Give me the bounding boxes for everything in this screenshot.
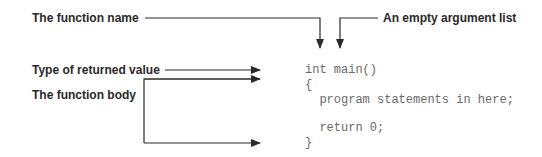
code-line-statements: program statements in here; bbox=[305, 93, 514, 107]
function-name-label: The function name bbox=[32, 11, 139, 25]
argument-list-arrow bbox=[340, 18, 378, 48]
code-line-open-brace: { bbox=[305, 78, 312, 92]
return-type-label: Type of returned value bbox=[32, 63, 160, 77]
empty-argument-list-label: An empty argument list bbox=[383, 11, 516, 25]
function-name-arrow bbox=[145, 18, 320, 48]
function-body-bracket-top bbox=[144, 79, 260, 143]
code-line-close-brace: } bbox=[305, 136, 312, 150]
code-line-return: return 0; bbox=[305, 121, 384, 135]
function-body-label: The function body bbox=[32, 88, 136, 102]
code-line-signature: int main() bbox=[305, 63, 377, 77]
